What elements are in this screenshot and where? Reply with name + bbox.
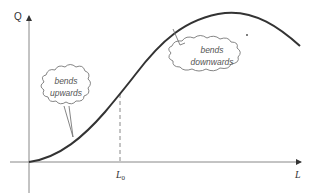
svg-text:bends: bends [54,76,78,86]
svg-text:bends: bends [200,45,224,55]
callout-bends-upwards: bends upwards [41,65,91,138]
l0-label: L0 [115,169,126,182]
diagram-canvas: Q L L0 bends upwards bends downwards [0,0,316,193]
y-axis-label: Q [14,11,22,22]
svg-text:upwards: upwards [50,88,83,98]
x-axis-label: L [294,169,301,180]
callout-bends-downwards: bends downwards [169,29,248,71]
svg-text:downwards: downwards [191,57,235,67]
